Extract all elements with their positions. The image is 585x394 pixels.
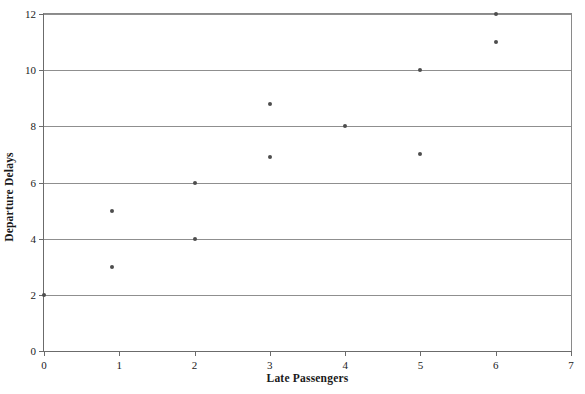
y-tick-label: 10 [25, 62, 36, 78]
gridline-y [44, 239, 571, 240]
x-tick-label: 7 [551, 358, 585, 372]
y-tick-label: 0 [31, 343, 37, 359]
x-tick-mark [571, 351, 572, 356]
x-tick-mark [119, 351, 120, 356]
gridline-y [44, 295, 571, 296]
data-point [193, 181, 197, 185]
x-tick-label: 5 [400, 358, 440, 372]
y-tick-mark [39, 70, 44, 71]
gridline-y [44, 14, 571, 15]
plot-area: 02468101201234567 [43, 13, 572, 352]
y-tick-mark [39, 183, 44, 184]
x-tick-mark [420, 351, 421, 356]
data-point [193, 237, 197, 241]
y-tick-mark [39, 126, 44, 127]
data-point [42, 293, 46, 297]
y-tick-mark [39, 14, 44, 15]
y-tick-label: 6 [31, 175, 37, 191]
x-tick-mark [270, 351, 271, 356]
x-tick-mark [195, 351, 196, 356]
x-tick-mark [496, 351, 497, 356]
y-tick-label: 4 [31, 231, 37, 247]
x-tick-mark [44, 351, 45, 356]
data-point [494, 12, 498, 16]
y-tick-label: 2 [31, 287, 37, 303]
data-point [110, 265, 114, 269]
y-tick-mark [39, 239, 44, 240]
gridline-y [44, 183, 571, 184]
x-tick-label: 0 [24, 358, 64, 372]
y-tick-label: 12 [25, 6, 36, 22]
x-tick-label: 2 [175, 358, 215, 372]
gridline-y [44, 70, 571, 71]
data-point [268, 102, 272, 106]
x-tick-label: 6 [476, 358, 516, 372]
x-tick-mark [345, 351, 346, 356]
y-axis-title: Departure Delays [0, 0, 18, 394]
scatter-chart-figure: Departure Delays 02468101201234567 Late … [0, 0, 585, 394]
data-point [110, 209, 114, 213]
data-point [418, 68, 422, 72]
y-tick-label: 8 [31, 118, 37, 134]
x-tick-label: 4 [325, 358, 365, 372]
data-point [268, 155, 272, 159]
x-tick-label: 1 [99, 358, 139, 372]
data-point [494, 40, 498, 44]
data-point [343, 124, 347, 128]
x-axis-title: Late Passengers [43, 372, 572, 384]
x-tick-label: 3 [250, 358, 290, 372]
gridline-y [44, 126, 571, 127]
data-point [418, 152, 422, 156]
